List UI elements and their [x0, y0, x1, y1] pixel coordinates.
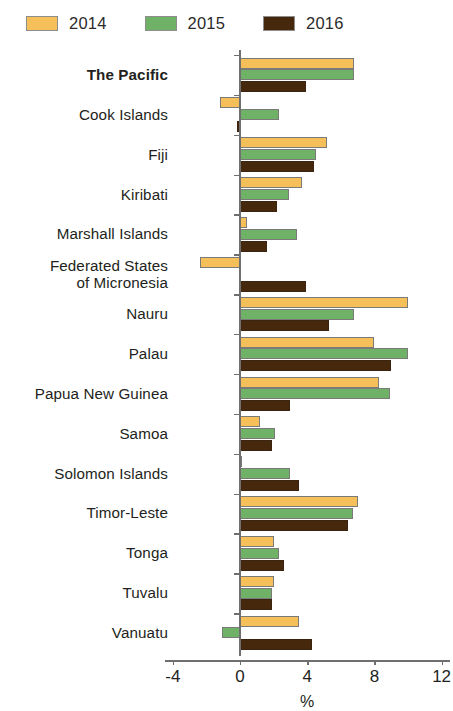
axis-tick-label: 4 [302, 667, 311, 687]
axis-tick [374, 660, 375, 665]
axis-tick-label: 8 [370, 667, 379, 687]
x-axis: -404812% [0, 660, 453, 705]
chart-row: Fiji [0, 135, 453, 175]
bar-2015 [240, 309, 354, 320]
axis-minor-tick [234, 533, 240, 534]
bar-2014 [240, 217, 247, 228]
bar-2016 [240, 639, 312, 650]
axis-tick-label: 0 [235, 667, 244, 687]
row-bars [0, 214, 453, 254]
row-bars [0, 573, 453, 613]
axis-minor-tick [234, 573, 240, 574]
row-bars [0, 493, 453, 533]
legend-item-2016: 2016 [263, 14, 344, 33]
row-bars [0, 254, 453, 294]
chart-row: Vanuatu [0, 613, 453, 653]
bar-2016 [240, 440, 272, 451]
legend-label-2016: 2016 [306, 14, 344, 33]
bar-2016 [240, 560, 284, 571]
axis-minor-tick [234, 214, 240, 215]
axis-minor-tick [234, 135, 240, 136]
bar-rows: The PacificCook IslandsFijiKiribatiMarsh… [0, 55, 453, 653]
bar-2014 [240, 137, 327, 148]
zero-axis-line [239, 50, 241, 656]
row-bars [0, 294, 453, 334]
chart-row: Papua New Guinea [0, 374, 453, 414]
axis-tick [240, 660, 241, 665]
axis-minor-tick [234, 494, 240, 495]
chart-row: The Pacific [0, 55, 453, 95]
axis-title: % [300, 693, 314, 711]
legend-swatch-2014 [26, 16, 58, 31]
chart-row: Cook Islands [0, 95, 453, 135]
chart-row: Kiribati [0, 175, 453, 215]
axis-minor-tick [234, 95, 240, 96]
bar-2016 [240, 360, 391, 371]
bar-2015 [240, 229, 297, 240]
plot-area: The PacificCook IslandsFijiKiribatiMarsh… [0, 46, 453, 660]
bar-2015 [240, 348, 408, 359]
bar-2016 [240, 599, 272, 610]
bar-2014 [240, 496, 358, 507]
bar-2015 [240, 149, 316, 160]
bar-2014 [240, 337, 374, 348]
bar-2016 [240, 161, 314, 172]
axis-tick-label: -4 [165, 667, 180, 687]
bar-2016 [240, 320, 329, 331]
bar-2014 [240, 297, 408, 308]
bar-2014 [240, 616, 299, 627]
axis-minor-tick [234, 414, 240, 415]
bar-2016 [240, 480, 299, 491]
row-bars [0, 135, 453, 175]
bar-2014 [240, 377, 379, 388]
bar-2016 [240, 201, 277, 212]
axis-minor-tick [234, 613, 240, 614]
bar-2016 [240, 241, 267, 252]
bar-2016 [240, 81, 306, 92]
row-bars [0, 414, 453, 454]
legend-label-2014: 2014 [69, 14, 107, 33]
chart-legend: 201420152016 [0, 0, 453, 46]
chart-row: Federated States of Micronesia [0, 254, 453, 294]
bar-2014 [200, 257, 240, 268]
axis-minor-tick [234, 294, 240, 295]
bar-2015 [240, 588, 272, 599]
legend-label-2015: 2015 [188, 14, 226, 33]
legend-item-2015: 2015 [145, 14, 226, 33]
axis-tick-label: 12 [432, 667, 451, 687]
chart-row: Nauru [0, 294, 453, 334]
row-bars [0, 175, 453, 215]
row-bars [0, 613, 453, 653]
legend-item-2014: 2014 [26, 14, 107, 33]
bar-2015 [240, 388, 390, 399]
axis-minor-tick [234, 454, 240, 455]
axis-tick [442, 660, 443, 665]
row-bars [0, 55, 453, 95]
bar-2014 [240, 536, 274, 547]
bar-2015 [240, 189, 289, 200]
row-bars [0, 374, 453, 414]
bar-2014 [220, 97, 240, 108]
chart-row: Timor-Leste [0, 493, 453, 533]
legend-swatch-2016 [263, 16, 295, 31]
axis-minor-tick [234, 254, 240, 255]
bar-2014 [240, 576, 274, 587]
axis-tick [173, 660, 174, 665]
bar-2015 [240, 109, 279, 120]
bar-2016 [240, 400, 290, 411]
axis-minor-tick [234, 334, 240, 335]
axis-minor-tick [234, 175, 240, 176]
chart-row: Palau [0, 334, 453, 374]
chart-row: Samoa [0, 414, 453, 454]
row-bars [0, 334, 453, 374]
bar-2016 [240, 520, 348, 531]
chart-row: Tonga [0, 533, 453, 573]
row-bars [0, 95, 453, 135]
bar-2014 [240, 58, 354, 69]
bar-2015 [240, 508, 353, 519]
bar-2014 [240, 177, 302, 188]
bar-2015 [240, 69, 354, 80]
chart-row: Tuvalu [0, 573, 453, 613]
bar-2016 [240, 281, 306, 292]
